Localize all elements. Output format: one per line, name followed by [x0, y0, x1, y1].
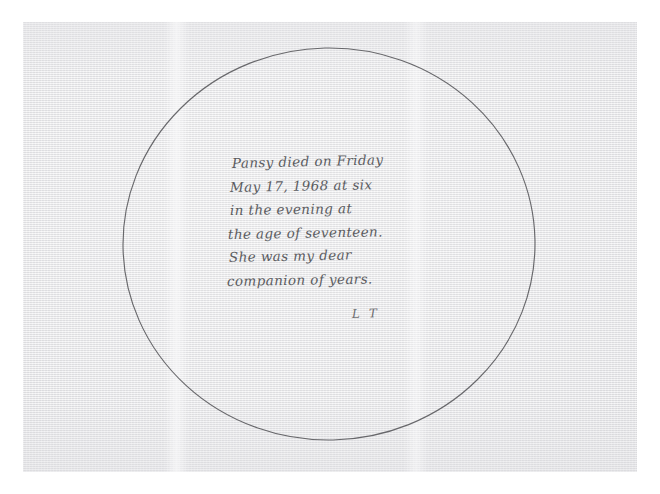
scanned-page: Pansy died on Friday May 17, 1968 at six… — [0, 0, 660, 494]
signature-initials: L T — [352, 306, 380, 321]
handwritten-note: Pansy died on Friday May 17, 1968 at six… — [232, 152, 492, 293]
note-line-6: companion of years. — [227, 265, 492, 293]
